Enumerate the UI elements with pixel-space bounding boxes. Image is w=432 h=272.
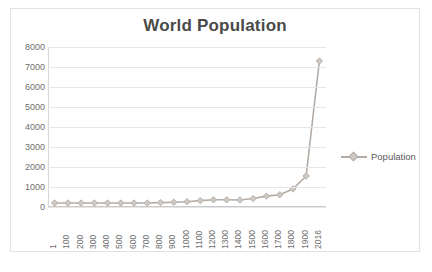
x-axis-tick-label: 1400 bbox=[233, 230, 243, 249]
gridline bbox=[48, 207, 326, 208]
data-point-marker bbox=[171, 199, 177, 205]
y-axis-tick-label: 7000 bbox=[11, 62, 45, 72]
chart-container: World Population 01000200030004000500060… bbox=[10, 8, 420, 252]
x-axis-tick-label: 600 bbox=[128, 235, 138, 249]
y-axis-tick-label: 2000 bbox=[11, 162, 45, 172]
chart-legend: Population bbox=[341, 151, 416, 162]
x-axis-tick-label: 1900 bbox=[300, 230, 310, 249]
x-axis-tick-label: 800 bbox=[154, 235, 164, 249]
data-point-marker bbox=[118, 200, 124, 206]
data-point-marker bbox=[91, 200, 97, 206]
x-axis-tick-label: 2016 bbox=[313, 230, 323, 249]
x-axis-tick-label: 1 bbox=[48, 244, 58, 249]
gridline bbox=[48, 167, 326, 168]
data-point-marker bbox=[237, 197, 243, 203]
plot-area bbox=[48, 47, 326, 207]
data-point-marker bbox=[65, 200, 71, 206]
data-point-marker bbox=[51, 200, 57, 206]
x-axis-tick-label: 400 bbox=[101, 235, 111, 249]
x-axis-tick-label: 1000 bbox=[181, 230, 191, 249]
x-axis-tick-label: 1600 bbox=[260, 230, 270, 249]
gridline bbox=[48, 187, 326, 188]
x-axis-tick-label: 1100 bbox=[194, 231, 204, 249]
y-axis-tick-label: 6000 bbox=[11, 82, 45, 92]
gridline bbox=[48, 107, 326, 108]
data-point-marker bbox=[131, 200, 137, 206]
x-axis-tick-labels: 1100200300400500600700800900100011001200… bbox=[48, 209, 326, 253]
legend-marker-icon bbox=[341, 152, 367, 162]
x-axis-tick-label: 500 bbox=[114, 235, 124, 249]
data-point-marker bbox=[276, 192, 282, 198]
x-axis-tick-label: 1300 bbox=[220, 230, 230, 249]
gridline bbox=[48, 127, 326, 128]
data-point-marker bbox=[263, 193, 269, 199]
y-axis-tick-label: 3000 bbox=[11, 142, 45, 152]
x-axis-tick-label: 300 bbox=[88, 235, 98, 249]
data-point-marker bbox=[157, 199, 163, 205]
data-point-marker bbox=[210, 197, 216, 203]
y-axis-tick-label: 5000 bbox=[11, 102, 45, 112]
x-axis-tick-label: 900 bbox=[167, 235, 177, 249]
y-axis-tick-label: 8000 bbox=[11, 42, 45, 52]
gridline bbox=[48, 67, 326, 68]
x-axis-tick-label: 700 bbox=[141, 235, 151, 249]
gridline bbox=[48, 47, 326, 48]
x-axis-tick-label: 200 bbox=[75, 235, 85, 249]
y-axis-tick-labels: 010002000300040005000600070008000 bbox=[11, 47, 45, 207]
data-point-marker bbox=[224, 197, 230, 203]
x-axis-tick-label: 100 bbox=[61, 235, 71, 249]
gridline bbox=[48, 147, 326, 148]
data-point-marker bbox=[250, 195, 256, 201]
data-point-marker bbox=[144, 200, 150, 206]
x-axis-tick-label: 1800 bbox=[286, 230, 296, 249]
y-axis-tick-label: 4000 bbox=[11, 122, 45, 132]
x-axis-tick-label: 1200 bbox=[207, 230, 217, 249]
x-axis-tick-label: 1700 bbox=[273, 230, 283, 249]
y-axis-tick-label: 0 bbox=[11, 202, 45, 212]
chart-title: World Population bbox=[11, 17, 419, 36]
data-point-marker bbox=[197, 197, 203, 203]
legend-entry-label: Population bbox=[371, 151, 416, 162]
x-axis-tick-label: 1500 bbox=[247, 230, 257, 249]
data-point-marker bbox=[78, 200, 84, 206]
y-axis-tick-label: 1000 bbox=[11, 182, 45, 192]
data-point-marker bbox=[184, 199, 190, 205]
gridline bbox=[48, 87, 326, 88]
data-point-marker bbox=[316, 58, 322, 64]
data-point-marker bbox=[104, 200, 110, 206]
